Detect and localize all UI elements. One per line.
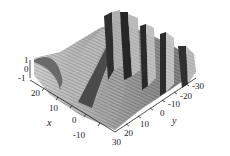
y-tick-neg30: -30: [192, 81, 204, 91]
x-tick-neg10: -10: [73, 130, 85, 140]
x-tick-20: 20: [31, 88, 41, 98]
x-tick-10: 10: [49, 103, 59, 113]
y-axis-label: y: [171, 115, 177, 126]
y-tick-10: 10: [140, 119, 150, 129]
x-axis-label: x: [46, 117, 52, 128]
y-tick-30: 30: [112, 137, 122, 147]
surface-plot: 1 0 -1 -10 0 10 20 x 30 20 10 0 -10 -20 …: [0, 0, 230, 156]
y-tick-neg20: -20: [180, 91, 192, 101]
surface: [34, 10, 196, 130]
z-tick-neg1: -1: [18, 73, 26, 83]
x-tick-0: 0: [72, 115, 77, 125]
y-tick-20: 20: [124, 128, 134, 138]
y-tick-0: 0: [160, 108, 165, 118]
y-tick-neg10: -10: [168, 99, 180, 109]
